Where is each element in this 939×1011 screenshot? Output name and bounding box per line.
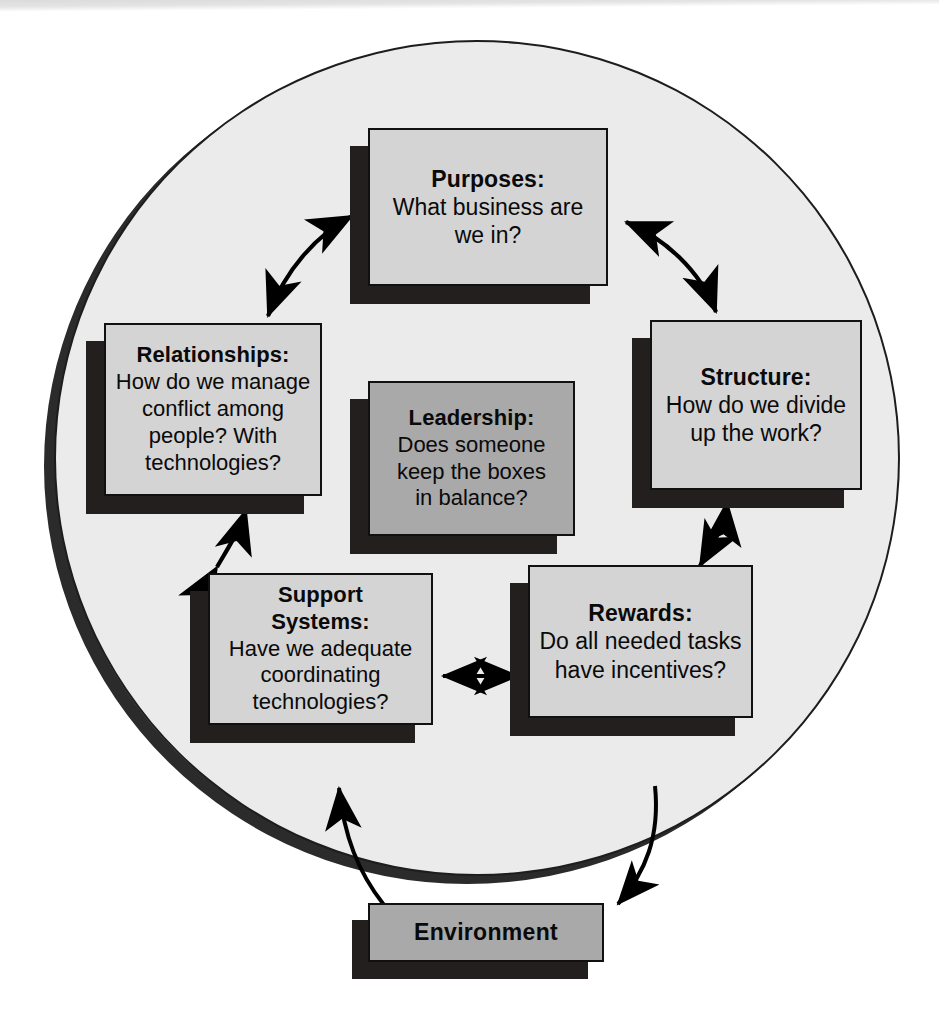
box-environment[interactable]: Environment: [368, 903, 604, 962]
box-purposes-line-1: What business are: [393, 193, 583, 221]
box-support-systems[interactable]: Support Systems: Have we adequate coordi…: [208, 573, 433, 725]
box-relationships-line-1: How do we manage: [116, 369, 310, 396]
box-support-systems-title: Support Systems:: [271, 582, 370, 636]
box-relationships-title: Relationships:: [137, 342, 290, 369]
box-relationships[interactable]: Relationships: How do we manage conflict…: [104, 323, 322, 496]
box-leadership[interactable]: Leadership: Does someone keep the boxes …: [368, 381, 575, 536]
box-structure-line-1: How do we divide: [666, 391, 846, 419]
box-purposes-body: What business are we in?: [393, 193, 583, 249]
box-support-systems-title-line-2: Systems:: [271, 609, 370, 636]
box-leadership-line-2: keep the boxes: [397, 459, 546, 486]
box-relationships-line-4: technologies?: [116, 450, 310, 477]
box-purposes-line-2: we in?: [393, 221, 583, 249]
box-leadership-line-1: Does someone: [397, 432, 546, 459]
box-structure-line-2: up the work?: [666, 419, 846, 447]
box-rewards-line-1: Do all needed tasks: [539, 627, 741, 655]
diagram-canvas: Purposes: What business are we in? Struc…: [0, 0, 939, 1011]
box-leadership-body: Does someone keep the boxes in balance?: [397, 432, 546, 512]
box-relationships-body: How do we manage conflict among people? …: [116, 369, 310, 476]
box-structure-body: How do we divide up the work?: [666, 391, 846, 447]
box-rewards-body: Do all needed tasks have incentives?: [539, 627, 741, 683]
box-purposes-title: Purposes:: [431, 165, 544, 193]
box-structure-title: Structure:: [701, 363, 812, 391]
box-rewards-title: Rewards:: [588, 599, 692, 627]
box-support-systems-body: Have we adequate coordinating technologi…: [229, 636, 412, 716]
box-relationships-line-2: conflict among: [116, 396, 310, 423]
box-leadership-title: Leadership:: [409, 405, 535, 432]
box-purposes[interactable]: Purposes: What business are we in?: [368, 128, 608, 286]
box-support-systems-line-2: coordinating: [229, 662, 412, 689]
box-support-systems-title-line-1: Support: [271, 582, 370, 609]
box-environment-title: Environment: [414, 918, 558, 946]
box-rewards[interactable]: Rewards: Do all needed tasks have incent…: [528, 565, 753, 718]
box-relationships-line-3: people? With: [116, 423, 310, 450]
scan-artifact-band: [0, 0, 939, 12]
box-structure[interactable]: Structure: How do we divide up the work?: [650, 320, 862, 490]
box-support-systems-line-1: Have we adequate: [229, 636, 412, 663]
box-support-systems-line-3: technologies?: [229, 689, 412, 716]
box-rewards-line-2: have incentives?: [539, 656, 741, 684]
box-leadership-line-3: in balance?: [397, 485, 546, 512]
